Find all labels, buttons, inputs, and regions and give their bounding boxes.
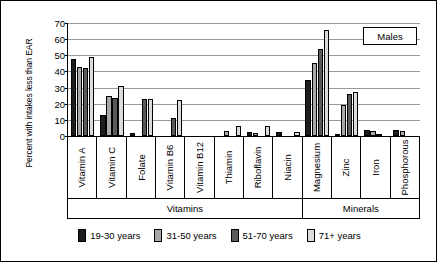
legend-item: 51-70 years — [231, 229, 293, 242]
bar — [324, 30, 329, 136]
bar — [77, 67, 82, 136]
y-axis-title: Percent with intakes less than EAR — [21, 15, 37, 191]
bar — [318, 49, 323, 136]
category-label-text: Vitamin B12 — [194, 142, 205, 193]
y-axis-tick-label: 20 — [54, 98, 65, 109]
bar-group — [68, 23, 97, 136]
y-axis-tick-label: 60 — [54, 34, 65, 45]
category-label-cell: Zinc — [331, 137, 360, 198]
bar-group — [97, 23, 126, 136]
bar-group — [244, 23, 273, 136]
category-label-text: Riboflavin — [253, 147, 264, 189]
bar — [106, 96, 111, 136]
bar-group — [215, 23, 244, 136]
group-label-cell: Minerals — [302, 199, 419, 218]
bar-group — [332, 23, 361, 136]
bar — [376, 134, 381, 136]
category-label-cell: Vitamin B12 — [184, 137, 213, 198]
category-label-text: Iron — [370, 159, 381, 175]
bar — [177, 100, 182, 136]
bar — [112, 98, 117, 136]
bar — [148, 99, 153, 136]
bar — [71, 59, 76, 136]
chart-figure: Percent with intakes less than EAR 01020… — [0, 0, 437, 262]
group-label-cell: Vitamins — [67, 199, 302, 218]
legend-swatch — [231, 229, 239, 242]
males-annotation-box: Males — [363, 27, 417, 45]
category-label-text: Niacin — [282, 154, 293, 180]
bar — [400, 131, 405, 136]
legend-label: 31-50 years — [166, 230, 216, 241]
category-label-text: Phosphorous — [399, 140, 410, 196]
bar — [89, 57, 94, 136]
group-label-band: VitaminsMinerals — [67, 199, 420, 219]
bar — [370, 131, 375, 136]
category-label-text: Vitamin B6 — [165, 145, 176, 191]
y-axis-tick-label: 30 — [54, 82, 65, 93]
legend-swatch — [307, 229, 315, 242]
bar — [171, 118, 176, 136]
bar — [253, 133, 258, 136]
bar — [347, 94, 352, 136]
chart-legend: 19-30 years31-50 years51-70 years71+ yea… — [1, 229, 437, 242]
category-label-cell: Riboflavin — [243, 137, 272, 198]
bar — [118, 86, 123, 136]
bar-group — [127, 23, 156, 136]
category-label-cell: Vitamin A — [67, 137, 96, 198]
y-axis-tick-label: 50 — [54, 50, 65, 61]
bar — [276, 132, 281, 136]
legend-item: 19-30 years — [78, 229, 140, 242]
bar — [305, 80, 310, 137]
bar — [142, 99, 147, 136]
category-label-text: Magnesium — [311, 143, 322, 192]
category-label-cell: Folate — [126, 137, 155, 198]
legend-label: 51-70 years — [243, 230, 293, 241]
bar — [265, 126, 270, 136]
males-annotation-label: Males — [377, 31, 402, 42]
category-label-text: Vitamin C — [106, 147, 117, 188]
bar — [335, 134, 340, 136]
bar — [312, 63, 317, 136]
bar-group — [273, 23, 302, 136]
y-axis-title-text: Percent with intakes less than EAR — [24, 39, 34, 168]
category-label-cell: Vitamin B6 — [155, 137, 184, 198]
category-label-text: Vitamin A — [77, 148, 88, 188]
bar — [393, 130, 398, 136]
category-label-text: Zinc — [341, 159, 352, 177]
bar — [224, 131, 229, 136]
category-label-text: Thiamin — [223, 151, 234, 185]
legend-label: 19-30 years — [90, 230, 140, 241]
legend-item: 71+ years — [307, 229, 361, 242]
category-label-band: Vitamin AVitamin CFolateVitamin B6Vitami… — [67, 137, 420, 199]
bar — [130, 133, 135, 136]
category-label-cell: Phosphorous — [390, 137, 419, 198]
y-axis-tick-label: 40 — [54, 66, 65, 77]
bar — [100, 115, 105, 136]
category-label-cell: Magnesium — [302, 137, 331, 198]
legend-item: 31-50 years — [154, 229, 216, 242]
bar — [353, 92, 358, 136]
category-label-cell: Niacin — [272, 137, 301, 198]
bar-group — [303, 23, 332, 136]
y-axis-tick-label: 10 — [54, 114, 65, 125]
legend-label: 71+ years — [319, 230, 361, 241]
bar — [83, 68, 88, 136]
y-axis-tick-label: 70 — [54, 18, 65, 29]
category-label-cell: Iron — [360, 137, 389, 198]
category-label-cell: Thiamin — [214, 137, 243, 198]
bar — [364, 130, 369, 136]
bar-group — [156, 23, 185, 136]
legend-swatch — [154, 229, 162, 242]
category-label-cell: Vitamin C — [96, 137, 125, 198]
bar-group — [185, 23, 214, 136]
category-label-text: Folate — [135, 154, 146, 180]
bar — [341, 105, 346, 136]
bar — [247, 132, 252, 136]
bar — [236, 126, 241, 136]
bar — [294, 132, 299, 136]
legend-swatch — [78, 229, 86, 242]
